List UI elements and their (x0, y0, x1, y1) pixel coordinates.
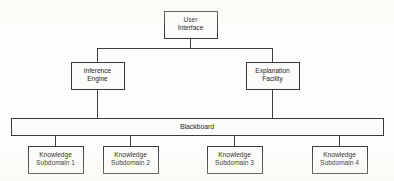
node-knowledge-subdomain-3: KnowledgeSubdomain 3 (208, 147, 263, 174)
node-label-knowledge-subdomain-1-line-1: Knowledge (39, 151, 72, 159)
blackboard-architecture-diagram: Blackboard UserInterfaceInferenceEngineE… (0, 0, 394, 181)
node-knowledge-subdomain-4: KnowledgeSubdomain 4 (313, 147, 368, 174)
node-explanation-facility: ExplanationFacility (247, 63, 300, 90)
node-label-knowledge-subdomain-3-line-2: Subdomain 3 (215, 159, 254, 166)
diagram-root: Blackboard UserInterfaceInferenceEngineE… (0, 0, 394, 181)
node-inference-engine: InferenceEngine (72, 63, 125, 90)
node-knowledge-subdomain-2: KnowledgeSubdomain 2 (104, 147, 159, 174)
node-label-knowledge-subdomain-2-line-1: Knowledge (114, 151, 147, 159)
node-label-explanation-facility-line-1: Explanation (255, 67, 290, 75)
node-label-user-interface-line-2: Interface (178, 24, 204, 31)
node-label-inference-engine-line-2: Engine (87, 75, 108, 83)
node-label-knowledge-subdomain-4-line-2: Subdomain 4 (320, 159, 359, 166)
node-label-explanation-facility-line-2: Facility (262, 75, 283, 83)
diagram-nodes: UserInterfaceInferenceEngineExplanationF… (29, 12, 368, 174)
node-label-knowledge-subdomain-3-line-1: Knowledge (218, 151, 251, 159)
node-label-knowledge-subdomain-1-line-2: Subdomain 1 (36, 159, 75, 166)
blackboard-label: Blackboard (180, 123, 214, 130)
node-label-user-interface-line-1: User (184, 16, 199, 23)
blackboard-node: Blackboard (12, 119, 384, 136)
node-knowledge-subdomain-1: KnowledgeSubdomain 1 (29, 147, 84, 174)
node-label-inference-engine-line-1: Inference (84, 67, 112, 74)
node-label-knowledge-subdomain-4-line-1: Knowledge (323, 151, 356, 159)
node-label-knowledge-subdomain-2-line-2: Subdomain 2 (111, 159, 150, 166)
node-user-interface: UserInterface (165, 12, 218, 39)
